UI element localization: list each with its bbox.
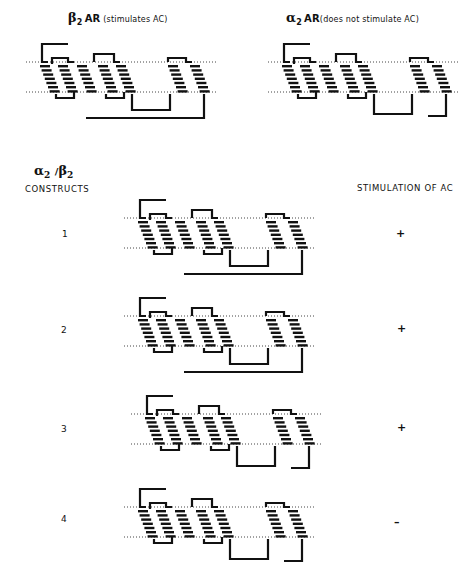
tm-helix-2 [156, 510, 176, 538]
tm-helix-6 [273, 417, 293, 445]
tm-helix-7 [288, 319, 308, 347]
tm-helix-2 [156, 319, 176, 347]
tm-helix-4 [340, 65, 360, 93]
extracellular-loop-3 [266, 312, 290, 316]
extracellular-loop-1 [150, 214, 172, 220]
c-terminus [86, 94, 204, 118]
intracellular-loop-1 [154, 537, 172, 543]
receptor-name: AR [85, 13, 101, 24]
tm-helix-5 [116, 65, 136, 93]
alpha-subscript: 2 [44, 170, 50, 180]
n-terminus [140, 200, 166, 218]
extracellular-loop-2 [192, 499, 218, 507]
receptor-note: (stimulates AC) [103, 15, 167, 24]
tm-helix-4 [196, 319, 216, 347]
c-terminus [184, 348, 302, 372]
extracellular-loop-2 [192, 308, 218, 316]
beta-subscript: 2 [77, 18, 83, 27]
receptor-diagram-construct-3 [131, 390, 321, 470]
tm-helix-6 [266, 510, 286, 538]
tm-helix-6 [266, 221, 286, 249]
tm-helix-1 [138, 510, 158, 538]
intracellular-loop-1 [154, 346, 172, 352]
n-terminus [147, 396, 173, 414]
intracellular-loop-2 [204, 537, 222, 543]
tm-helix-6 [168, 65, 188, 93]
receptor-name: AR [304, 13, 320, 24]
alpha2-ar-title: α2AR(does not stimulate AC) [286, 10, 419, 27]
extracellular-loop-2 [94, 54, 120, 62]
tm-helix-7 [190, 65, 210, 93]
c-terminus [184, 250, 302, 274]
tm-helix-5 [214, 319, 234, 347]
stimulation-sign-3: + [397, 421, 406, 434]
intracellular-loop-3 [374, 94, 412, 114]
tm-helix-7 [288, 221, 308, 249]
tm-helix-7 [288, 510, 308, 538]
tm-helix-3 [175, 221, 195, 249]
tm-helix-3 [175, 510, 195, 538]
tm-helix-1 [138, 221, 158, 249]
tm-helix-4 [196, 510, 216, 538]
extracellular-loop-1 [150, 312, 172, 318]
stimulation-header: STIMULATION OF AC [357, 183, 453, 193]
extracellular-loop-2 [192, 210, 218, 218]
stimulation-sign-2: + [397, 322, 406, 335]
stimulation-sign-1: + [396, 227, 405, 240]
tm-helix-2 [58, 65, 78, 93]
tm-helix-2 [156, 221, 176, 249]
receptor-diagram-alpha2 [268, 38, 458, 118]
tm-helix-3 [182, 417, 202, 445]
tm-helix-7 [432, 65, 452, 93]
n-terminus [42, 44, 68, 62]
tm-helix-5 [221, 417, 241, 445]
extracellular-loop-3 [168, 58, 192, 62]
tm-helix-3 [77, 65, 97, 93]
receptor-note: (does not stimulate AC) [320, 15, 419, 24]
extracellular-loop-3 [273, 410, 297, 414]
construct-number-1: 1 [62, 229, 68, 239]
extracellular-loop-1 [52, 58, 74, 64]
tm-helix-1 [145, 417, 165, 445]
tm-helix-4 [196, 221, 216, 249]
n-terminus [140, 298, 166, 316]
intracellular-loop-1 [56, 92, 74, 98]
extracellular-loop-3 [410, 58, 434, 62]
extracellular-loop-3 [266, 503, 290, 507]
extracellular-loop-2 [199, 406, 225, 414]
intracellular-loop-1 [298, 92, 316, 98]
construct-number-4: 4 [61, 514, 67, 524]
intracellular-loop-1 [154, 248, 172, 254]
tm-helix-1 [40, 65, 60, 93]
extracellular-loop-1 [294, 58, 316, 64]
beta-symbol: β [68, 10, 77, 25]
intracellular-loop-2 [211, 444, 229, 450]
receptor-diagram-construct-1 [124, 194, 314, 274]
tm-helix-3 [319, 65, 339, 93]
tm-helix-1 [282, 65, 302, 93]
n-terminus [284, 44, 310, 62]
tm-helix-6 [410, 65, 430, 93]
construct-number-3: 3 [61, 424, 67, 434]
beta-subscript: 2 [67, 170, 73, 180]
beta2-ar-title: β2AR (stimulates AC) [68, 10, 168, 27]
intracellular-loop-3 [132, 94, 170, 110]
tm-helix-4 [203, 417, 223, 445]
intracellular-loop-3 [230, 250, 268, 266]
tm-helix-6 [266, 319, 286, 347]
tm-helix-5 [214, 510, 234, 538]
constructs-label: CONSTRUCTS [25, 184, 89, 194]
stimulation-sign-4: – [394, 516, 400, 529]
tm-helix-1 [138, 319, 158, 347]
alpha-symbol: α [34, 163, 44, 178]
construct-number-2: 2 [61, 325, 67, 335]
intracellular-loop-3 [237, 446, 275, 466]
receptor-diagram-construct-2 [124, 292, 314, 372]
tm-helix-5 [358, 65, 378, 93]
tm-helix-7 [295, 417, 315, 445]
tm-helix-2 [300, 65, 320, 93]
constructs-greek-header: α2 /β2 [34, 163, 73, 180]
intracellular-loop-3 [230, 539, 268, 559]
tm-helix-3 [175, 319, 195, 347]
receptor-diagram-construct-4 [124, 483, 314, 563]
